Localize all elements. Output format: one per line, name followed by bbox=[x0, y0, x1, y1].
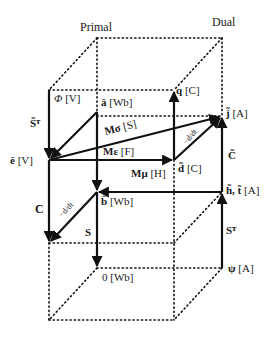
op-C-tilde: C̃ bbox=[228, 150, 236, 161]
arrow-a-to-e bbox=[51, 112, 97, 158]
node-e: ê [V] bbox=[10, 155, 33, 166]
dual-header: Dual bbox=[212, 16, 235, 28]
node-psi: ψ [A] bbox=[228, 263, 254, 274]
tonti-diagram: Primal Dual Φ [V] â [Wb] q [C] j̃ [A] ê … bbox=[0, 0, 275, 346]
op-S-tilde-transpose: S̃ᵀ bbox=[30, 118, 40, 129]
node-b: b̂ [Wb] bbox=[101, 196, 133, 207]
op-S-transpose: Sᵀ bbox=[226, 225, 236, 236]
cube-edges-dotted bbox=[49, 38, 222, 320]
node-phi: Φ [V] bbox=[54, 93, 80, 104]
op-C: C bbox=[35, 203, 44, 215]
node-d: d̃ [C] bbox=[178, 163, 202, 174]
node-q: q [C] bbox=[176, 85, 200, 96]
node-j: j̃ [A] bbox=[226, 108, 248, 119]
node-h-t: h̃, t̃ [A] bbox=[226, 185, 259, 196]
node-zero: 0 [Wb] bbox=[102, 272, 133, 283]
node-a: â [Wb] bbox=[101, 97, 132, 108]
op-M-epsilon: Mε [F] bbox=[103, 146, 134, 157]
op-M-mu: Mμ [H] bbox=[131, 168, 166, 179]
primal-header: Primal bbox=[80, 21, 112, 33]
op-S: S bbox=[85, 227, 91, 238]
